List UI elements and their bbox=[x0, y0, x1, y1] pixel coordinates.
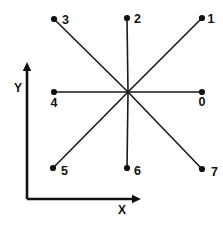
ray-lines-group bbox=[53, 18, 202, 169]
ray-line-7 bbox=[128, 92, 202, 169]
endpoint-label-5: 5 bbox=[61, 164, 68, 178]
endpoint-label-7: 7 bbox=[211, 165, 218, 179]
direction-star-diagram: 01234567 X Y bbox=[0, 0, 223, 227]
ray-line-6 bbox=[127, 92, 128, 168]
endpoint-labels-group: 01234567 bbox=[51, 12, 218, 179]
endpoint-dot-3 bbox=[51, 16, 57, 22]
endpoint-label-1: 1 bbox=[208, 12, 215, 26]
endpoint-dot-1 bbox=[199, 15, 205, 21]
figure-canvas: 01234567 X Y bbox=[0, 0, 223, 227]
endpoint-dot-2 bbox=[124, 15, 130, 21]
endpoint-dot-7 bbox=[199, 166, 205, 172]
endpoint-label-2: 2 bbox=[134, 12, 141, 26]
x-axis-label: X bbox=[118, 203, 126, 217]
ray-line-5 bbox=[53, 92, 128, 168]
endpoint-dot-6 bbox=[124, 165, 130, 171]
y-axis-arrowhead bbox=[23, 62, 31, 71]
endpoint-label-3: 3 bbox=[62, 13, 69, 27]
endpoint-label-0: 0 bbox=[199, 95, 206, 109]
endpoint-dot-4 bbox=[51, 89, 57, 95]
endpoint-label-6: 6 bbox=[134, 164, 141, 178]
ray-line-3 bbox=[54, 19, 128, 92]
ray-line-2 bbox=[127, 18, 128, 92]
ray-line-1 bbox=[128, 18, 202, 92]
endpoint-label-4: 4 bbox=[51, 96, 58, 110]
y-axis-label: Y bbox=[14, 81, 22, 95]
endpoint-dot-5 bbox=[50, 165, 56, 171]
x-axis-arrowhead bbox=[132, 195, 141, 203]
